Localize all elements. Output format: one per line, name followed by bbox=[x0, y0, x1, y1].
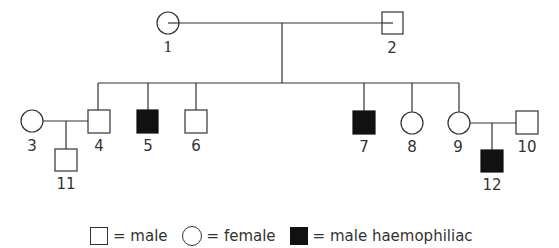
individual-7-affected-male bbox=[353, 111, 375, 134]
label-10: 10 bbox=[517, 140, 536, 155]
legend-male-label: = male bbox=[113, 227, 168, 245]
individual-8-female bbox=[401, 112, 423, 134]
individual-9-female bbox=[448, 112, 470, 134]
label-9: 9 bbox=[453, 140, 463, 155]
affected-male-square-icon bbox=[290, 227, 308, 245]
individual-6-male bbox=[185, 110, 207, 133]
label-2: 2 bbox=[387, 41, 397, 56]
label-5: 5 bbox=[143, 139, 153, 154]
male-square-icon bbox=[90, 227, 108, 245]
label-8: 8 bbox=[407, 140, 417, 155]
individual-5-affected-male bbox=[137, 110, 158, 133]
label-11: 11 bbox=[56, 177, 75, 192]
individual-12-affected-male bbox=[481, 150, 503, 172]
individual-3-female bbox=[21, 110, 43, 132]
legend-item-female: = female bbox=[182, 226, 276, 246]
label-12: 12 bbox=[482, 178, 501, 193]
pedigree-diagram bbox=[0, 0, 559, 248]
label-1: 1 bbox=[163, 40, 173, 55]
female-circle-icon bbox=[182, 226, 202, 246]
label-3: 3 bbox=[27, 139, 37, 154]
label-4: 4 bbox=[94, 139, 104, 154]
individual-10-male bbox=[516, 111, 538, 134]
individual-11-male bbox=[55, 149, 77, 171]
legend-affected-male-label: = male haemophiliac bbox=[313, 227, 473, 245]
legend-female-label: = female bbox=[207, 227, 276, 245]
label-6: 6 bbox=[191, 139, 201, 154]
label-7: 7 bbox=[359, 140, 369, 155]
legend-item-male: = male bbox=[90, 227, 168, 245]
individual-4-male bbox=[88, 110, 110, 133]
legend: = male = female = male haemophiliac bbox=[90, 226, 487, 246]
legend-item-affected-male: = male haemophiliac bbox=[290, 227, 473, 245]
